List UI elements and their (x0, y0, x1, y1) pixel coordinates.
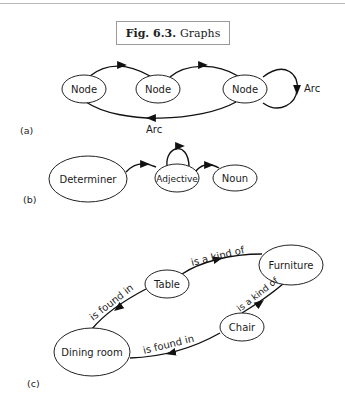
panel-c: Table Furniture Chair Dining room is a k… (27, 244, 323, 389)
edge-label-table-furniture: is a kind of (190, 244, 246, 268)
node-noun-label: Noun (222, 173, 248, 184)
arc-node1-node2 (90, 66, 150, 76)
self-loop-node3 (263, 69, 297, 107)
panel-a: Node Node Node Arc Arc (a) (20, 65, 320, 136)
panel-c-label: (c) (27, 378, 40, 389)
edge-label-table-diningroom: is found in (87, 282, 135, 323)
arc-node3-node1 (86, 102, 236, 118)
node-a2-label: Node (145, 84, 171, 95)
self-loop-adjective (167, 149, 189, 166)
node-a3-label: Node (232, 84, 258, 95)
arc-adjective-noun (196, 165, 219, 171)
node-chair-label: Chair (229, 322, 256, 333)
node-dining-room-label: Dining room (61, 347, 122, 358)
arc-determiner-adjective (126, 164, 156, 172)
edge-label-chair-furniture: is a kind of (235, 275, 280, 314)
arc-label-bottom: Arc (146, 124, 162, 135)
node-furniture-label: Furniture (269, 260, 314, 271)
node-table-label: Table (153, 279, 180, 290)
panel-a-label: (a) (20, 125, 33, 136)
panel-b: Determiner Adjective Noun (b) (23, 146, 257, 205)
node-determiner-label: Determiner (60, 174, 118, 185)
arrowhead (171, 352, 175, 353)
node-a1-label: Node (71, 84, 97, 95)
arc-label-self-loop: Arc (304, 83, 320, 94)
arc-node2-node3 (170, 66, 238, 77)
node-adjective-label: Adjective (156, 174, 198, 184)
panel-b-label: (b) (23, 194, 36, 205)
graphs-diagram: Node Node Node Arc Arc (a) Determiner Ad… (0, 0, 345, 415)
